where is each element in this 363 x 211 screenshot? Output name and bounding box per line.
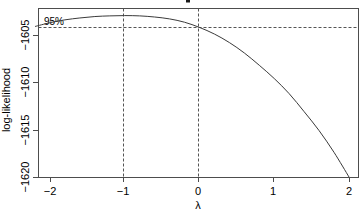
x-tick-label-neg2: −2 <box>44 185 57 197</box>
x-tick-label-2: 2 <box>346 185 352 197</box>
boxcox-loglikelihood-figure: −2 −1 0 1 2 λ −1605 −1610 −1615 −1620 lo… <box>0 0 363 211</box>
chart-canvas: −2 −1 0 1 2 λ −1605 −1610 −1615 −1620 lo… <box>0 0 363 211</box>
y-axis-title: log-likelihood <box>0 68 12 132</box>
y-tick-label-neg1610: −1610 <box>19 67 31 98</box>
y-tick-label-neg1605: −1605 <box>19 20 31 51</box>
y-axis-ticks <box>33 36 38 178</box>
loglikelihood-curve <box>35 16 349 177</box>
x-tick-label-0: 0 <box>195 185 201 197</box>
x-axis-title: λ <box>195 199 201 211</box>
y-tick-label-neg1615: −1615 <box>19 115 31 146</box>
x-axis-ticks <box>51 177 350 182</box>
y-tick-label-neg1620: −1620 <box>19 162 31 193</box>
x-tick-label-1: 1 <box>270 185 276 197</box>
x-tick-label-neg1: −1 <box>117 185 130 197</box>
